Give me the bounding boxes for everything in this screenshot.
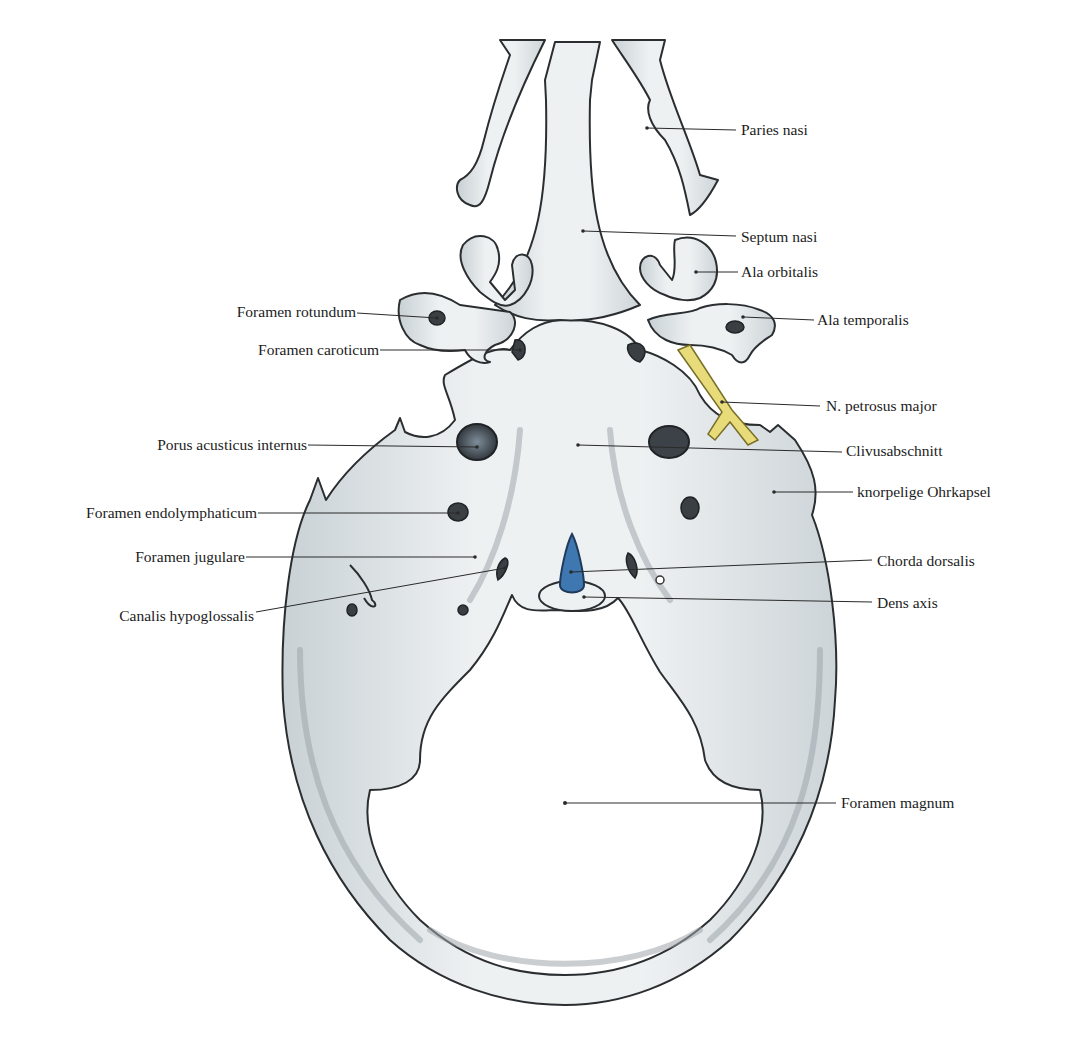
label-clivusabschnitt: Clivusabschnitt: [846, 442, 942, 460]
label-paries-nasi: Paries nasi: [741, 121, 808, 139]
label-porus-acusticus-internus: Porus acusticus internus: [157, 436, 307, 454]
label-foramen-endolymphaticum: Foramen endolymphaticum: [86, 504, 257, 522]
label-canalis-hypoglossalis: Canalis hypoglossalis: [119, 607, 254, 625]
porus-acusticus-right: [649, 426, 689, 458]
chondrocranium-illustration: [0, 0, 1069, 1058]
label-foramen-magnum: Foramen magnum: [841, 794, 954, 812]
label-knorpelige-ohrkapsel: knorpelige Ohrkapsel: [857, 483, 991, 501]
porus-acusticus-left: [457, 424, 497, 460]
label-septum-nasi: Septum nasi: [741, 228, 817, 246]
label-dens-axis: Dens axis: [877, 594, 938, 612]
foramen-endolymphaticum-right: [681, 497, 699, 519]
label-ala-temporalis: Ala temporalis: [817, 311, 909, 329]
label-foramen-jugulare: Foramen jugulare: [135, 548, 245, 566]
label-foramen-caroticum: Foramen caroticum: [258, 341, 379, 359]
label-n-petrosus-major: N. petrosus major: [826, 397, 937, 415]
label-foramen-rotundum: Foramen rotundum: [237, 303, 356, 321]
basal-plate: [282, 320, 836, 1005]
foramen-temporal-hole: [726, 321, 744, 333]
label-chorda-dorsalis: Chorda dorsalis: [877, 552, 975, 570]
label-ala-orbitalis: Ala orbitalis: [741, 263, 818, 281]
